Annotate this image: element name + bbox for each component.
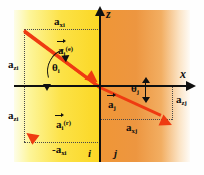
vector-label-reflected: ai(r) bbox=[56, 119, 71, 131]
amp-sub: xi bbox=[61, 149, 66, 156]
amplitude-a-xi-top: axi bbox=[54, 16, 65, 28]
amp-sub: zi bbox=[14, 115, 19, 122]
vector-base: a bbox=[108, 99, 114, 110]
amplitude-a-xj-bottom: axj bbox=[126, 122, 137, 134]
theta-i-label: θi bbox=[52, 62, 60, 74]
theta-sub: j bbox=[137, 88, 139, 95]
amplitude-a-zi-upper: azi bbox=[8, 59, 18, 71]
theta-j-arrowhead-down bbox=[142, 97, 150, 103]
dotted-top-horizontal bbox=[24, 29, 100, 30]
amp-sub: zj bbox=[182, 99, 187, 106]
amplitude-neg-a-xi-bottom: -axi bbox=[52, 144, 66, 156]
amp-sub: xj bbox=[132, 127, 138, 134]
z-axis-label: z bbox=[106, 8, 111, 20]
vector-base: a bbox=[58, 45, 64, 56]
dotted-bottom-horizontal bbox=[24, 142, 100, 143]
x-axis-label: x bbox=[180, 68, 186, 80]
x-axis bbox=[14, 85, 190, 87]
z-axis bbox=[99, 14, 101, 162]
amplitude-a-zj-right: azj bbox=[176, 94, 187, 106]
x-axis-arrowhead bbox=[186, 81, 196, 91]
region-label-i: i bbox=[88, 148, 91, 159]
vector-base: a bbox=[56, 119, 62, 130]
dotted-right-vertical bbox=[172, 86, 173, 120]
z-axis-arrowhead bbox=[95, 6, 105, 16]
vector-sup: (e) bbox=[65, 45, 73, 52]
theta-j-arrowhead-up bbox=[142, 77, 150, 83]
vector-label-incident: ai(e) bbox=[58, 45, 73, 57]
vector-sup: (r) bbox=[63, 119, 71, 126]
vector-label-transmitted: aj bbox=[108, 99, 116, 111]
wave-vector-diagram: z x axi azi azi -axi azj axj ai(e) ai(r)… bbox=[0, 0, 204, 175]
region-label-j: j bbox=[114, 148, 117, 159]
amp-sub: zi bbox=[14, 64, 19, 71]
theta-sub: i bbox=[58, 67, 60, 74]
amplitude-a-zi-lower: azi bbox=[8, 110, 18, 122]
amp-sub: xi bbox=[60, 21, 65, 28]
amp-base: -a bbox=[52, 143, 61, 155]
theta-j-label: θj bbox=[131, 83, 139, 95]
